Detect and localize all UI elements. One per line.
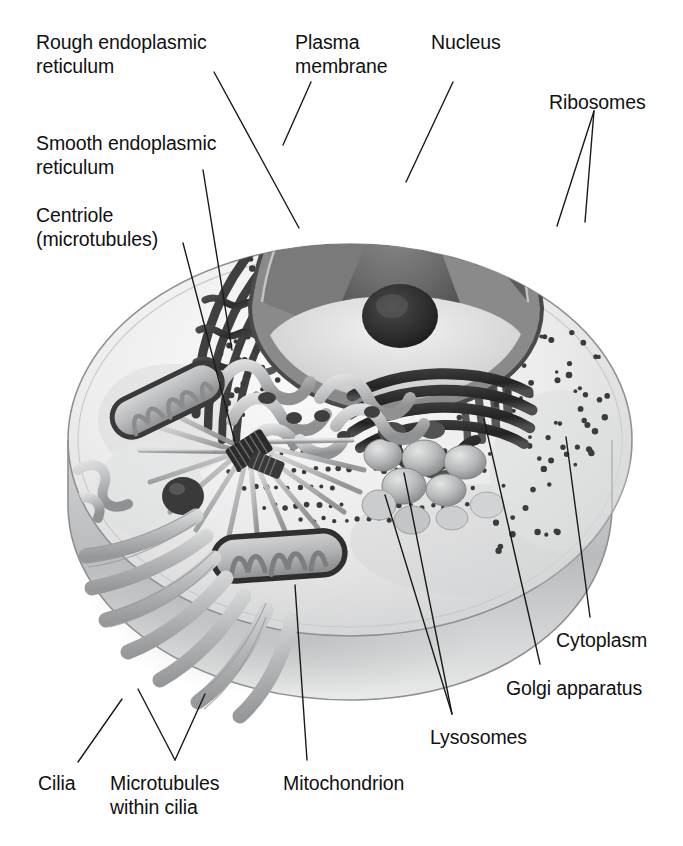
label-rough-er: Rough endoplasmic reticulum [36, 30, 207, 78]
label-nucleus: Nucleus [431, 30, 501, 54]
label-layer: Rough endoplasmic reticulumPlasma membra… [0, 0, 683, 846]
label-mitochondrion: Mitochondrion [283, 771, 404, 795]
label-centriole: Centriole (microtubules) [36, 203, 158, 251]
cell-diagram-figure: Rough endoplasmic reticulumPlasma membra… [0, 0, 683, 846]
label-plasma-membrane: Plasma membrane [295, 30, 387, 78]
label-cytoplasm: Cytoplasm [556, 628, 647, 652]
label-lysosomes: Lysosomes [430, 725, 527, 749]
label-smooth-er: Smooth endoplasmic reticulum [36, 131, 216, 179]
label-microtubules: Microtubules within cilia [110, 771, 219, 819]
label-ribosomes: Ribosomes [549, 90, 646, 114]
label-golgi: Golgi apparatus [506, 676, 642, 700]
label-cilia: Cilia [38, 771, 75, 795]
